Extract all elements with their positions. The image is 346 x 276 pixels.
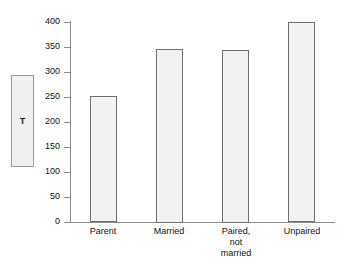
bar-chart-figure: T 050100150200250300350400 ParentMarried… <box>0 0 346 276</box>
y-axis-title-label: T <box>20 117 26 126</box>
y-tick-label-150: 150 <box>32 142 60 151</box>
y-tick-150 <box>64 147 70 148</box>
y-tick-label-100: 100 <box>32 167 60 176</box>
y-tick-label-wrap-150: 150 <box>30 142 60 151</box>
x-axis-label: Parent <box>70 226 136 237</box>
y-tick-label-wrap-350: 350 <box>30 42 60 51</box>
y-tick-label-wrap-50: 50 <box>30 192 60 201</box>
y-tick-label-300: 300 <box>32 67 60 76</box>
y-tick-label-400: 400 <box>32 17 60 26</box>
y-tick-label-wrap-400: 400 <box>30 17 60 26</box>
bar[interactable] <box>222 50 249 223</box>
y-tick-label-wrap-200: 200 <box>30 117 60 126</box>
x-axis-line <box>70 222 335 223</box>
bar[interactable] <box>156 49 183 223</box>
y-tick-label-wrap-100: 100 <box>30 167 60 176</box>
y-tick-label-350: 350 <box>32 42 60 51</box>
y-tick-250 <box>64 97 70 98</box>
y-tick-200 <box>64 122 70 123</box>
y-tick-label-wrap-0: 0 <box>30 217 60 226</box>
y-tick-label-0: 0 <box>32 217 60 226</box>
y-tick-350 <box>64 47 70 48</box>
y-tick-400 <box>64 22 70 23</box>
y-tick-100 <box>64 172 70 173</box>
x-axis-label: Paired, not married <box>203 226 269 259</box>
y-tick-label-wrap-300: 300 <box>30 67 60 76</box>
y-tick-label-50: 50 <box>32 192 60 201</box>
x-axis-label: Married <box>136 226 202 237</box>
y-tick-label-250: 250 <box>32 92 60 101</box>
y-tick-label-wrap-250: 250 <box>30 92 60 101</box>
x-axis-label: Unpaired <box>269 226 335 237</box>
y-tick-300 <box>64 72 70 73</box>
bar[interactable] <box>90 96 117 222</box>
y-axis-line <box>70 21 71 223</box>
bar[interactable] <box>288 22 315 222</box>
y-tick-label-200: 200 <box>32 117 60 126</box>
y-tick-0 <box>64 222 70 223</box>
y-tick-50 <box>64 197 70 198</box>
